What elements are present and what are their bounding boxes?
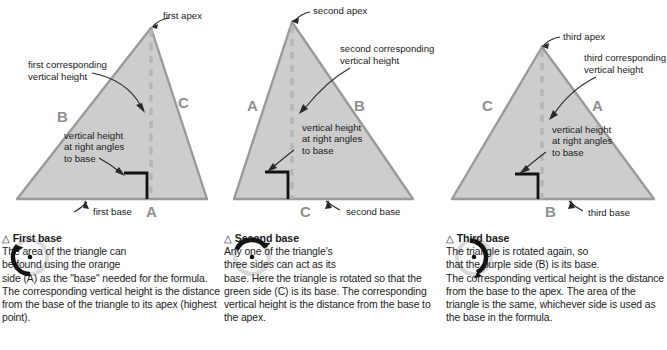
rightangle-label-line2-first: at right angles <box>64 141 124 152</box>
rightangle-label-line3-third: to base <box>552 147 612 158</box>
caption-text-first: △ First base The area of the triangle ca… <box>2 232 221 324</box>
rightangle-label-line1-first: vertical height <box>64 130 124 141</box>
height-label-line2-first: vertical height <box>28 71 107 83</box>
caption-heading-third: Third base <box>457 232 510 244</box>
caption-heading-second: Second base <box>235 232 299 244</box>
side-label-c-third: C <box>482 97 493 114</box>
height-label-line1-second: second corresponding <box>340 43 434 55</box>
figure-third-base: third apex third corresponding vertical … <box>444 0 666 228</box>
caption-body-first: side (A) as the "base" needed for the fo… <box>2 273 220 324</box>
triangle-bullet-glyph-third: △ <box>446 233 454 244</box>
caption-body-second: base. Here the triangle is rotated so th… <box>224 273 431 324</box>
rightangle-label-line3-first: to base <box>64 153 124 164</box>
side-label-a-first: A <box>146 203 157 220</box>
rightangle-label-line2-second: at right angles <box>302 133 362 144</box>
side-label-b-first: B <box>57 108 68 125</box>
side-label-b-third: B <box>545 203 556 220</box>
base-label-first: first base <box>93 206 132 217</box>
rightangle-label-line1-third: vertical height <box>552 124 612 135</box>
triangle-bullet-glyph-first: △ <box>2 233 10 244</box>
side-label-b-second: B <box>354 97 365 114</box>
apex-label-second: second apex <box>313 5 367 16</box>
apex-label-third: third apex <box>563 31 605 42</box>
panel-third-base: third apex third corresponding vertical … <box>444 0 666 350</box>
caption-line2-second: three sides can act as its <box>224 259 336 270</box>
base-arrowhead-first <box>83 200 89 209</box>
caption-line1-first: The area of the triangle can <box>2 246 126 257</box>
caption-body-third: The corresponding vertical height is the… <box>446 273 664 324</box>
height-label-line1-third: third corresponding <box>584 52 666 64</box>
apex-label-first: first apex <box>163 10 202 21</box>
caption-first-base: △ First base The area of the triangle ca… <box>0 230 222 348</box>
caption-second-base: △ Second base Any one of the triangle's … <box>222 230 444 348</box>
height-label-line2-third: vertical height <box>584 64 666 76</box>
base-label-second: second base <box>346 206 400 217</box>
caption-heading-first: First base <box>13 232 62 244</box>
figure-first-base: first apex first corresponding vertical … <box>0 0 222 228</box>
triangle-shape-first <box>17 28 207 199</box>
caption-line2-first: be found using the orange <box>2 259 120 270</box>
caption-line1-third: The triangle is rotated again, so <box>446 246 588 257</box>
caption-third-base: △ Third base The triangle is rotated aga… <box>444 230 666 348</box>
side-label-c-second: C <box>300 203 311 220</box>
base-label-third: third base <box>588 207 630 218</box>
side-label-c-first: C <box>178 94 189 111</box>
caption-text-second: △ Second base Any one of the triangle's … <box>224 232 443 324</box>
caption-line2-third: that the purple side (B) is its base. <box>446 259 599 270</box>
rightangle-label-line3-second: to base <box>302 145 362 156</box>
caption-line1-second: Any one of the triangle's <box>224 246 333 257</box>
panel-second-base: second apex second corresponding vertica… <box>222 0 444 350</box>
triangle-bullet-glyph-second: △ <box>224 233 232 244</box>
height-label-line1-first: first corresponding <box>28 59 107 71</box>
caption-text-third: △ Third base The triangle is rotated aga… <box>446 232 665 324</box>
side-label-a-third: A <box>592 97 603 114</box>
height-label-line2-second: vertical height <box>340 55 434 67</box>
panel-first-base: first apex first corresponding vertical … <box>0 0 222 350</box>
rightangle-label-line2-third: at right angles <box>552 135 612 146</box>
rightangle-label-line1-second: vertical height <box>302 122 362 133</box>
apex-leader-third <box>544 37 560 45</box>
side-label-a-second: A <box>247 97 258 114</box>
figure-second-base: second apex second corresponding vertica… <box>222 0 444 228</box>
